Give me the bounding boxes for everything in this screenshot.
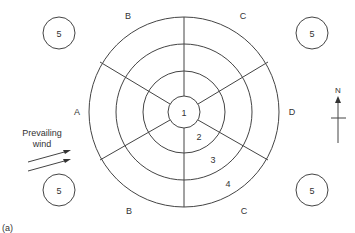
sector-label-bottom-left: B bbox=[126, 206, 132, 216]
wind-arrowhead-1 bbox=[63, 150, 71, 154]
center-label: 1 bbox=[181, 108, 186, 118]
sector-label-top-right: C bbox=[240, 11, 247, 21]
sector-label-bottom-right: C bbox=[241, 206, 248, 216]
sector-label-right: D bbox=[289, 107, 296, 117]
sector-label-left: A bbox=[74, 107, 80, 117]
zoning-diagram: 1 2 3 4 B C A D B C 5 5 5 5 Prevailing w… bbox=[0, 0, 355, 233]
wind-label-line2: wind bbox=[32, 139, 52, 149]
figure-label: (a) bbox=[2, 223, 13, 233]
ring-label-2: 2 bbox=[196, 132, 201, 142]
north-arrowhead bbox=[335, 96, 341, 103]
wind-label-line1: Prevailing bbox=[22, 128, 62, 138]
spoke-lower-right bbox=[198, 120, 268, 160]
sector-label-top-left: B bbox=[125, 11, 131, 21]
wind-arrow-2 bbox=[28, 160, 68, 171]
spoke-upper-right bbox=[198, 62, 268, 104]
north-label: N bbox=[335, 86, 341, 95]
wind-arrowhead-2 bbox=[63, 159, 71, 163]
ring-label-3: 3 bbox=[210, 155, 215, 165]
corner-label-bottom-right: 5 bbox=[309, 186, 314, 196]
corner-label-bottom-left: 5 bbox=[56, 186, 61, 196]
ring-label-4: 4 bbox=[225, 179, 230, 189]
wind-arrow-1 bbox=[28, 151, 68, 162]
corner-label-top-left: 5 bbox=[56, 29, 61, 39]
corner-label-top-right: 5 bbox=[309, 29, 314, 39]
spoke-lower-left bbox=[100, 120, 170, 160]
spoke-upper-left bbox=[100, 62, 170, 104]
